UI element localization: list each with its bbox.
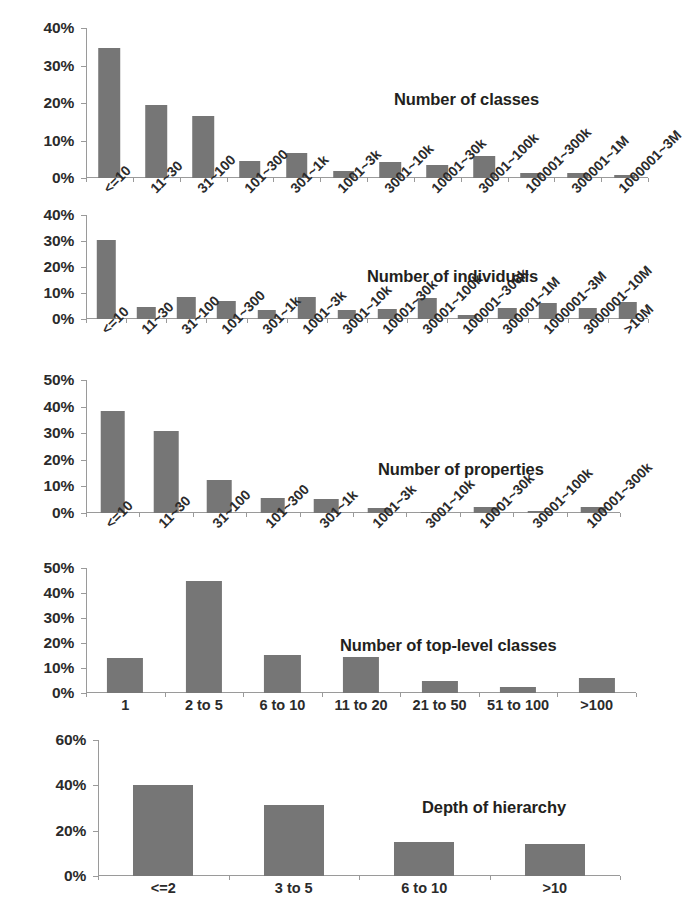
bar-slot	[98, 740, 229, 876]
x-axis-tick	[243, 693, 244, 697]
bar[interactable]	[99, 48, 121, 178]
x-axis-tick	[86, 178, 87, 182]
x-axis-tick	[648, 319, 649, 323]
y-tick-label: 20%	[44, 451, 74, 469]
bar[interactable]	[264, 655, 300, 693]
x-axis-tick	[461, 178, 462, 182]
x-tick-label: >10	[542, 880, 567, 896]
x-axis-tick	[490, 876, 491, 880]
x-tick-label: 6 to 10	[401, 880, 447, 896]
bar-slot	[86, 380, 139, 513]
y-tick-label: 10%	[44, 659, 74, 677]
x-axis-tick	[322, 693, 323, 697]
bar[interactable]	[525, 844, 585, 876]
bar-slot	[229, 740, 360, 876]
chart-title: Number of classes	[394, 90, 539, 109]
bar-slot	[557, 568, 636, 693]
y-tick-label: 10%	[44, 284, 74, 302]
x-axis-tick	[367, 319, 368, 323]
y-tick-label: 60%	[56, 731, 86, 749]
chart-title: Number of individuals	[367, 267, 538, 286]
bar[interactable]	[343, 657, 379, 693]
x-axis-tick	[620, 876, 621, 880]
x-axis-tick	[414, 178, 415, 182]
y-axis-labels: 0%10%20%30%40%	[0, 28, 74, 178]
x-axis-tick	[528, 319, 529, 323]
x-axis-tick	[367, 178, 368, 182]
bar-series	[86, 568, 636, 693]
y-tick-label: 0%	[52, 684, 74, 702]
bar[interactable]	[579, 678, 615, 693]
y-tick-label: 50%	[44, 371, 74, 389]
bar[interactable]	[394, 842, 454, 876]
x-axis-tick	[601, 178, 602, 182]
x-tick-label: 3 to 5	[275, 880, 313, 896]
bar-slot	[479, 568, 558, 693]
x-axis-tick	[86, 693, 87, 697]
x-axis-tick	[406, 513, 407, 517]
bar[interactable]	[186, 581, 222, 694]
y-tick-label: 50%	[44, 559, 74, 577]
x-axis-tick	[229, 876, 230, 880]
x-axis-tick	[193, 513, 194, 517]
x-axis-tick	[648, 178, 649, 182]
bar[interactable]	[133, 785, 193, 876]
bar[interactable]	[107, 658, 143, 694]
x-axis-tick	[180, 178, 181, 182]
x-tick-label: 51 to 100	[487, 697, 549, 713]
x-axis-tick	[300, 513, 301, 517]
y-tick-label: 20%	[56, 822, 86, 840]
bar-slot	[322, 568, 401, 693]
x-axis-tick	[246, 513, 247, 517]
y-tick-label: 30%	[44, 57, 74, 75]
y-tick-label: 30%	[44, 424, 74, 442]
chart-number-of-properties: 0%10%20%30%40%50%<=1011~3031~100101~3003…	[0, 380, 659, 513]
bar[interactable]	[421, 681, 457, 694]
bar-slot	[320, 28, 367, 178]
x-axis-tick	[353, 513, 354, 517]
y-tick-label: 0%	[52, 310, 74, 328]
chart-number-of-top-level-classes: 0%10%20%30%40%50%12 to 56 to 1011 to 202…	[0, 568, 659, 693]
plot-area: <=1011~3031~100101~300301~1k1001~3k3001~…	[86, 28, 648, 178]
x-axis-tick	[273, 178, 274, 182]
x-axis-tick	[460, 513, 461, 517]
y-axis-labels: 0%10%20%30%40%50%	[0, 380, 74, 513]
bar-slot	[86, 28, 133, 178]
chart-number-of-classes: 0%10%20%30%40%<=1011~3031~100101~300301~…	[0, 28, 659, 178]
x-tick-label: 1	[121, 697, 129, 713]
x-axis-tick	[508, 178, 509, 182]
bar[interactable]	[97, 240, 115, 319]
y-tick-label: 20%	[44, 634, 74, 652]
x-axis-tick	[407, 319, 408, 323]
x-axis-tick	[608, 319, 609, 323]
x-axis-tick	[554, 178, 555, 182]
y-tick-label: 40%	[44, 398, 74, 416]
x-tick-label: 21 to 50	[413, 697, 467, 713]
chart-number-of-individuals: 0%10%20%30%40%<=1011~3031~100101~300301~…	[0, 215, 659, 319]
y-tick-label: 0%	[52, 504, 74, 522]
chart-depth-of-hierarchy: 0%20%40%60%<=23 to 56 to 10>10Depth of h…	[0, 740, 659, 876]
bar-slot	[133, 28, 180, 178]
bar[interactable]	[100, 411, 125, 513]
x-axis-tick	[400, 693, 401, 697]
x-axis-tick	[479, 693, 480, 697]
bar-slot	[243, 568, 322, 693]
x-tick-label: <=2	[151, 880, 176, 896]
x-axis-tick	[126, 319, 127, 323]
y-tick-label: 20%	[44, 94, 74, 112]
plot-area: 12 to 56 to 1011 to 2021 to 5051 to 100>…	[86, 568, 636, 693]
x-tick-label: 11 to 20	[334, 697, 387, 713]
plot-area: <=1011~3031~100101~300301~1k1001~3k3001~…	[86, 380, 620, 513]
x-axis-tick	[513, 513, 514, 517]
chart-title: Depth of hierarchy	[422, 798, 566, 817]
y-axis-labels: 0%10%20%30%40%	[0, 215, 74, 319]
y-tick-label: 0%	[64, 867, 86, 885]
bar[interactable]	[264, 805, 324, 876]
y-tick-label: 40%	[56, 776, 86, 794]
y-tick-label: 40%	[44, 19, 74, 37]
x-axis-tick	[247, 319, 248, 323]
x-axis-tick	[165, 693, 166, 697]
x-axis-tick	[86, 319, 87, 323]
x-axis-tick	[227, 178, 228, 182]
